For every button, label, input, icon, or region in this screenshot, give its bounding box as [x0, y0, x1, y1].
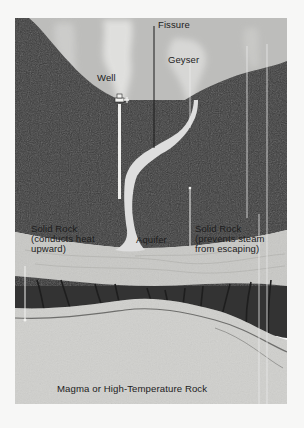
label-solid-rock-right-3: from escaping)	[195, 244, 259, 254]
label-well: Well	[97, 73, 116, 83]
leader-dot	[24, 319, 27, 322]
label-magma: Magma or High-Temperature Rock	[57, 384, 207, 394]
well-pipe	[118, 104, 121, 199]
label-solid-rock-left-3: upward)	[31, 244, 66, 254]
label-aquifer: Aquifer	[136, 235, 167, 245]
geothermal-diagram: Fissure Geyser Well Solid Rock (conducts…	[15, 18, 287, 404]
diagram-illustration	[15, 18, 287, 404]
leader-dot	[189, 187, 192, 190]
label-geyser: Geyser	[168, 55, 199, 65]
label-fissure: Fissure	[158, 20, 190, 30]
